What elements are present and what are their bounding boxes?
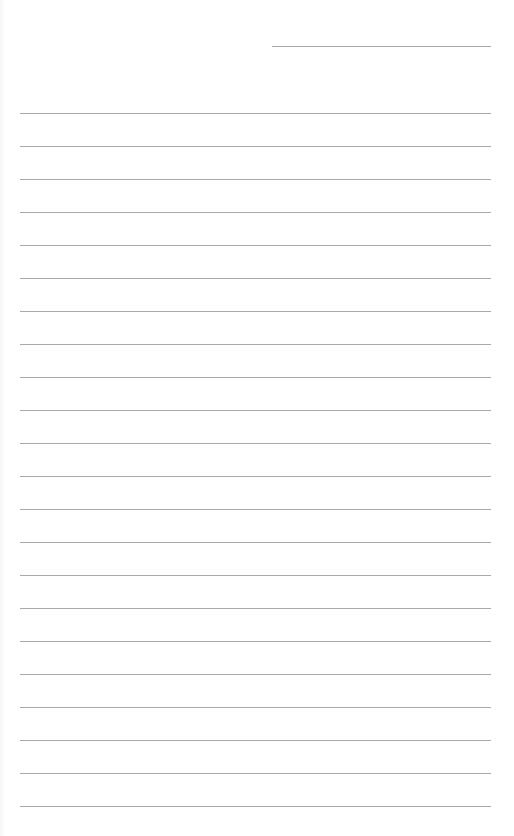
ruled-line: [20, 608, 491, 609]
ruled-line: [20, 443, 491, 444]
ruled-line: [20, 740, 491, 741]
ruled-line: [20, 278, 491, 279]
ruled-line: [20, 707, 491, 708]
ruled-line: [20, 575, 491, 576]
ruled-line: [20, 476, 491, 477]
page-edge-shadow: [0, 0, 6, 836]
ruled-line: [20, 410, 491, 411]
ruled-line: [20, 344, 491, 345]
ruled-line: [20, 641, 491, 642]
ruled-line: [20, 179, 491, 180]
ruled-line: [20, 377, 491, 378]
ruled-line: [20, 311, 491, 312]
ruled-line: [20, 245, 491, 246]
ruled-line: [20, 113, 491, 114]
lined-page: [0, 0, 514, 836]
ruled-line: [20, 806, 491, 807]
ruled-line: [20, 542, 491, 543]
ruled-line: [20, 212, 491, 213]
ruled-line: [20, 674, 491, 675]
header-name-line: [272, 46, 491, 47]
ruled-line: [20, 146, 491, 147]
ruled-line: [20, 509, 491, 510]
ruled-line: [20, 773, 491, 774]
